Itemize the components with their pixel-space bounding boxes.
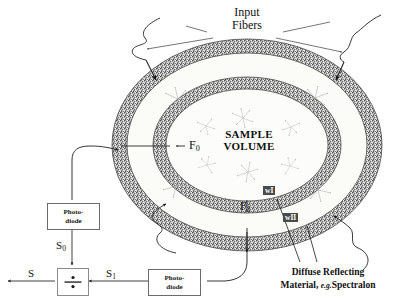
photodiode-box-0[interactable]: Photo- diode [47,203,100,230]
sample-volume-line2: VOLUME [214,141,284,153]
f1-label: F1 [240,200,251,215]
photodiode-0-line1: Photo- [64,208,84,216]
f0-label: F0 [189,139,200,154]
photodiode-box-1[interactable]: Photo- diode [148,269,201,296]
caption-line-2: Material, e.g.Spectralon [262,279,394,292]
input-fibers-line1: Input [214,6,280,19]
diffuse-material-caption: Diffuse Reflecting Material, e.g.Spectra… [262,266,394,292]
caption-line-1: Diffuse Reflecting [262,266,394,279]
caption-eg: e.g. [321,281,332,290]
photodiode-1-line1: Photo- [165,274,185,282]
input-fibers-line2: Fibers [214,19,280,32]
sample-volume-label: SAMPLE VOLUME [214,129,284,153]
f1-symbol: F [240,199,247,213]
photodiode-1-line2: diode [166,283,182,291]
wall-inner-label: wI [263,186,275,195]
wall-outer-label: wII [283,213,298,222]
signal-s-label: S [28,268,34,280]
f0-subscript: 0 [196,144,200,153]
figure-canvas: Input Fibers SAMPLE VOLUME F0 F1 wI wII … [0,0,395,307]
signal-s1-label: S1 [106,268,116,281]
f0-symbol: F [189,138,196,152]
ratio-divider-box[interactable] [57,268,89,296]
caption-material-word: Material, [281,280,321,290]
f1-subscript: 1 [247,205,251,214]
caption-spectralon: Spectralon [332,280,376,290]
input-fibers-label: Input Fibers [214,6,280,32]
photodiode-0-line2: diode [65,217,81,225]
divide-icon [58,269,88,295]
signal-s0-label: S0 [56,240,66,253]
